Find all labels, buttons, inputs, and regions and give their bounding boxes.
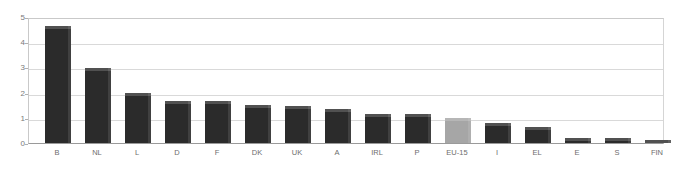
- bar-dk[interactable]: [245, 105, 271, 143]
- x-tick-label: L: [117, 148, 157, 157]
- x-tick-label: EL: [517, 148, 557, 157]
- bar-el[interactable]: [525, 127, 551, 143]
- bar-right-face: [468, 118, 471, 143]
- bar-b[interactable]: [45, 26, 71, 143]
- plot-area: [28, 18, 664, 144]
- bar-chart: 012345 BNLLDFDKUKAIRLPEU-15IELESFIN: [0, 0, 683, 174]
- bar-s[interactable]: [605, 138, 631, 143]
- x-tick-label: S: [597, 148, 637, 157]
- y-tick-label: 3: [5, 64, 25, 72]
- x-tick-label: D: [157, 148, 197, 157]
- bar-slot: [518, 17, 558, 143]
- bar-right-face: [188, 101, 191, 143]
- x-tick-label: DK: [237, 148, 277, 157]
- bar-slot: [398, 17, 438, 143]
- x-tick-label: EU-15: [437, 148, 477, 157]
- x-tick-label: A: [317, 148, 357, 157]
- bar-l[interactable]: [125, 93, 151, 143]
- bar-nl[interactable]: [85, 68, 111, 143]
- bar-slot: [118, 17, 158, 143]
- bar-slot: [198, 17, 238, 143]
- y-tick-label: 2: [5, 90, 25, 98]
- bar-p[interactable]: [405, 114, 431, 143]
- bar-slot: [438, 17, 478, 143]
- bar-eu-15[interactable]: [445, 118, 471, 143]
- bar-slot: [558, 17, 598, 143]
- x-tick-label: F: [197, 148, 237, 157]
- bar-d[interactable]: [165, 101, 191, 143]
- bar-right-face: [428, 114, 431, 143]
- y-axis: 012345: [0, 18, 25, 144]
- y-tick-label: 1: [5, 115, 25, 123]
- bar-slot: [38, 17, 78, 143]
- x-tick-label: I: [477, 148, 517, 157]
- bar-slot: [318, 17, 358, 143]
- bar-right-face: [588, 138, 591, 143]
- bar-right-face: [268, 105, 271, 143]
- bar-right-face: [148, 93, 151, 143]
- bar-right-face: [388, 114, 391, 143]
- x-tick-label: P: [397, 148, 437, 157]
- bar-f[interactable]: [205, 101, 231, 143]
- bar-slot: [158, 17, 198, 143]
- bar-right-face: [628, 138, 631, 143]
- bar-right-face: [228, 101, 231, 143]
- bar-uk[interactable]: [285, 106, 311, 143]
- bar-right-face: [68, 26, 71, 143]
- bar-fin[interactable]: [645, 140, 671, 143]
- y-tick-label: 4: [5, 39, 25, 47]
- bar-slot: [78, 17, 118, 143]
- bar-slot: [278, 17, 318, 143]
- bar-right-face: [108, 68, 111, 143]
- bar-slot: [598, 17, 638, 143]
- x-tick-label: IRL: [357, 148, 397, 157]
- bar-right-face: [548, 127, 551, 143]
- bar-right-face: [668, 140, 671, 143]
- bar-slot: [638, 17, 678, 143]
- bar-irl[interactable]: [365, 114, 391, 143]
- bar-slot: [478, 17, 518, 143]
- bar-right-face: [508, 123, 511, 143]
- bar-e[interactable]: [565, 138, 591, 143]
- x-tick-label: NL: [77, 148, 117, 157]
- bar-right-face: [308, 106, 311, 143]
- x-tick-label: FIN: [637, 148, 677, 157]
- x-tick-label: UK: [277, 148, 317, 157]
- bar-right-face: [348, 109, 351, 143]
- y-tick-mark: [25, 144, 28, 145]
- y-tick-label: 5: [5, 14, 25, 22]
- y-tick-label: 0: [5, 140, 25, 148]
- x-tick-label: B: [37, 148, 77, 157]
- bar-a[interactable]: [325, 109, 351, 143]
- x-tick-label: E: [557, 148, 597, 157]
- bar-i[interactable]: [485, 123, 511, 143]
- bar-slot: [238, 17, 278, 143]
- bar-slot: [358, 17, 398, 143]
